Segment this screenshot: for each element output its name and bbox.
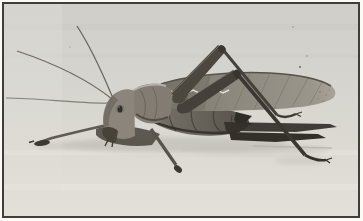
eye bbox=[117, 105, 122, 112]
photo-frame bbox=[2, 2, 360, 218]
grasshopper-photo bbox=[4, 4, 358, 216]
page-background bbox=[0, 0, 363, 221]
pronotum bbox=[132, 84, 172, 124]
